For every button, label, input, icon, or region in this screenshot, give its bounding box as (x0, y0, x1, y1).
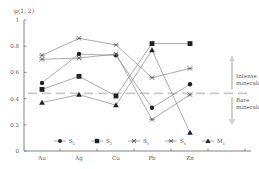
series-line (42, 54, 190, 108)
triangle-marker-icon (149, 47, 155, 52)
legend-label: M1 (217, 138, 225, 146)
circle-marker-icon (40, 81, 44, 85)
legend-item-s4: S4 (165, 138, 187, 146)
legend-label: S1 (69, 138, 75, 146)
legend-label: S2 (106, 138, 112, 146)
x-marker-icon (169, 139, 174, 143)
circle-marker-icon (188, 82, 192, 86)
series-s1 (40, 52, 192, 110)
down-arrowhead-icon (229, 119, 235, 125)
annotation-bare-text: Bare (236, 97, 249, 103)
mineralization-line-chart: 00.20.40.60.81AuAgCuPbZn S1S2S3S4M1 Inte… (0, 0, 259, 169)
x-marker-icon (76, 56, 81, 60)
mineralization-annotations: IntensemineralizationBaremineralization (229, 55, 259, 125)
square-marker-icon (114, 94, 119, 99)
x-marker-icon (39, 57, 44, 61)
annotation-bare-text: mineralization (236, 104, 259, 110)
x-tick-label: Zn (186, 155, 194, 161)
x-marker-icon (149, 75, 154, 79)
series-s3 (39, 36, 192, 80)
y-tick-label: 0.4 (10, 96, 19, 102)
series-line (42, 50, 190, 133)
square-marker-icon (77, 74, 82, 79)
y-tick-label: 0 (16, 148, 20, 154)
legend-item-s3: S3 (128, 138, 149, 146)
series-s4 (39, 52, 192, 122)
y-axis-label: μ(1, 2) (14, 7, 34, 15)
x-tick-label: Pb (148, 155, 156, 161)
legend-item-s1: S1 (54, 138, 75, 146)
x-tick-label: Cu (112, 155, 120, 161)
series-s2 (40, 41, 193, 98)
triangle-marker-icon (187, 130, 193, 135)
legend-label: S4 (180, 138, 187, 146)
x-marker-icon (187, 66, 192, 70)
annotation-intense-text: Intense (236, 73, 257, 79)
circle-marker-icon (77, 52, 81, 56)
square-marker-icon (40, 87, 45, 92)
y-tick-label: 1 (16, 17, 20, 23)
legend: S1S2S3S4M1 (54, 138, 225, 146)
legend-label: S3 (143, 138, 149, 146)
square-marker-icon (188, 41, 193, 46)
series-lines (39, 36, 193, 135)
x-tick-label: Ag (74, 155, 83, 162)
y-tick-label: 0.8 (10, 43, 19, 49)
y-tick-label: 0.2 (10, 122, 19, 128)
x-marker-icon (149, 117, 154, 121)
x-marker-icon (132, 139, 137, 143)
legend-item-m1: M1 (202, 138, 225, 146)
annotation-intense-text: mineralization (236, 80, 259, 86)
series-line (42, 44, 190, 96)
y-tick-label: 0.6 (10, 69, 19, 75)
x-marker-icon (76, 36, 81, 40)
circle-marker-icon (58, 139, 62, 143)
legend-item-s2: S2 (91, 138, 112, 146)
square-marker-icon (150, 41, 155, 46)
x-marker-icon (113, 43, 118, 47)
series-line (42, 38, 190, 77)
circle-marker-icon (150, 106, 154, 110)
up-arrowhead-icon (229, 55, 235, 61)
x-tick-label: Au (37, 155, 46, 161)
axes: 00.20.40.60.81AuAgCuPbZn (10, 17, 251, 162)
square-marker-icon (95, 139, 99, 143)
series-line (42, 54, 190, 120)
series-m1 (39, 47, 193, 135)
